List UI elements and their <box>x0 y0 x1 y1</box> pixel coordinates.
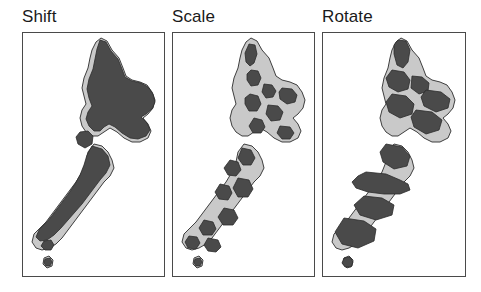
figure-root: Shift <box>0 0 481 292</box>
panel-title-rotate: Rotate <box>322 7 373 27</box>
new-zealand-map-rotate <box>322 32 466 277</box>
map-layer-dark <box>36 40 155 266</box>
new-zealand-map-scale <box>172 32 315 277</box>
new-zealand-map-shift <box>22 32 165 277</box>
panel-shift: Shift <box>22 32 165 277</box>
map-shift <box>22 32 165 277</box>
panel-scale: Scale <box>172 32 315 277</box>
map-rotate <box>322 32 466 277</box>
panel-title-scale: Scale <box>172 7 215 27</box>
map-layer-dark <box>335 40 450 267</box>
panel-rotate: Rotate <box>322 32 466 277</box>
panel-title-shift: Shift <box>22 7 57 27</box>
map-scale <box>172 32 315 277</box>
